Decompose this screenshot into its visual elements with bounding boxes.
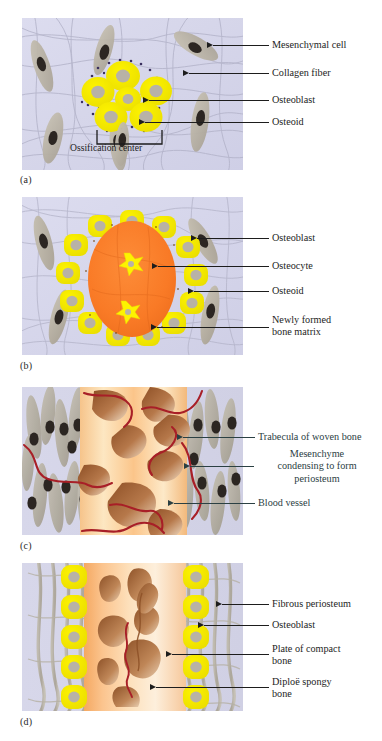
leader-osteoid-a: [145, 122, 269, 123]
panel-tag-b: (b): [20, 360, 32, 371]
arrowhead-newly-formed-bone-matrix: [151, 324, 157, 330]
label-osteoblast-b: Osteoblast: [272, 232, 315, 244]
leader-osteoblast-b: [197, 238, 269, 239]
arrowhead-osteoblast-d: [198, 622, 204, 628]
label-osteoblast-d: Osteoblast: [272, 619, 315, 631]
panel-tag-c: (c): [20, 540, 32, 551]
label-diploe-spongy-bone: Diploë spongy bone: [272, 676, 332, 701]
arrowhead-osteocyte: [152, 263, 158, 269]
ossification-center-label: Ossification center: [70, 142, 142, 153]
arrowhead-blood-vessel: [168, 500, 174, 506]
leader-diploe-spongy-bone: [156, 687, 269, 688]
label-plate-compact-bone: Plate of compact bone: [272, 643, 340, 668]
leader-osteoblast-a: [149, 100, 269, 101]
label-osteoblast-a: Osteoblast: [272, 94, 315, 106]
label-mesenchyme-periosteum: Mesenchyme condensing to form periosteum: [256, 448, 378, 485]
leader-osteoblast-d: [204, 625, 269, 626]
arrowhead-mesenchyme-periosteum: [184, 463, 190, 469]
label-newly-formed-bone-matrix: Newly formed bone matrix: [272, 314, 331, 339]
arrowhead-collagen-fiber: [183, 70, 189, 76]
panel-tag-d: (d): [20, 716, 32, 727]
label-blood-vessel: Blood vessel: [258, 497, 310, 509]
arrowhead-trabecula: [177, 434, 183, 440]
panel-tag-a: (a): [20, 174, 32, 185]
arrowhead-osteoblast-a: [143, 97, 149, 103]
leader-newly-formed-bone-matrix: [157, 327, 269, 328]
label-trabecula: Trabecula of woven bone: [258, 431, 361, 443]
leader-osteocyte: [158, 266, 269, 267]
label-mesenchymal-cell: Mesenchymal cell: [272, 39, 346, 51]
leader-mesenchymal-cell: [213, 45, 269, 46]
leader-plate-compact-bone: [172, 654, 269, 655]
arrowhead-osteoid-b: [188, 288, 194, 294]
arrowhead-osteoblast-b: [191, 235, 197, 241]
arrowhead-osteoid-a: [139, 119, 145, 125]
label-collagen-fiber: Collagen fiber: [272, 67, 331, 79]
leader-trabecula: [183, 437, 255, 438]
panel-d-image: [22, 563, 243, 711]
panel-b-image: [22, 197, 243, 355]
arrowhead-mesenchymal-cell: [207, 42, 213, 48]
leader-fibrous-periosteum: [222, 604, 269, 605]
label-osteocyte: Osteocyte: [272, 260, 313, 272]
ossification-figure: Ossification center (a) Mesenchymal cell…: [0, 0, 382, 741]
leader-mesenchyme-periosteum: [190, 466, 254, 467]
leader-osteoid-b: [194, 291, 269, 292]
leader-blood-vessel: [174, 503, 255, 504]
arrowhead-plate-compact-bone: [166, 651, 172, 657]
leader-collagen-fiber: [189, 73, 269, 74]
label-osteoid-a: Osteoid: [272, 116, 304, 128]
label-fibrous-periosteum: Fibrous periosteum: [272, 598, 351, 610]
arrowhead-diploe-spongy-bone: [150, 684, 156, 690]
arrowhead-fibrous-periosteum: [216, 601, 222, 607]
label-osteoid-b: Osteoid: [272, 285, 304, 297]
panel-c-image: [22, 387, 243, 535]
